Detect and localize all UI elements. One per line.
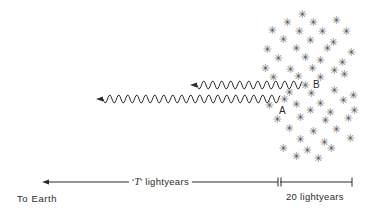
star-glyph: ✳ [322,43,331,54]
star-glyph: ✳ [315,98,324,109]
star-glyph: ✳ [329,85,338,96]
star-glyph: ✳ [305,35,314,46]
star-glyph: ✳ [320,115,329,126]
star-glyph: ✳ [278,143,287,154]
star-glyph: ✳ [313,153,322,164]
star-glyph: ✳ [291,151,300,162]
twenty-lightyears-label: 20 lightyears [286,191,344,202]
star-glyph: ✳ [315,55,324,66]
star-glyph: ✳ [267,25,276,36]
star-glyph: ✳ [282,17,291,28]
star-glyph: ✳ [345,133,354,144]
star-glyph: ✳ [348,90,357,101]
relativity-lightwave-diagram: ✳✳✳✳✳✳✳✳✳✳✳✳✳✳✳✳✳✳✳✳✳✳✳✳✳✳✳✳✳✳✳✳✳✳✳✳✳✳✳✳… [0,0,378,215]
star-glyph: ✳ [317,26,326,37]
distance-axis [42,178,352,187]
star-glyph: ✳ [308,126,317,137]
to-earth-label: To Earth [17,193,57,204]
star-glyph: ✳ [337,57,346,68]
star-glyph: ✳ [268,72,277,83]
star-glyph: ✳ [341,26,350,37]
star-glyph: ✳ [329,65,338,76]
star-glyph: ✳ [278,34,287,45]
star-glyph: ✳ [297,9,306,20]
wave-from-a [96,95,280,103]
star-glyph: ✳ [302,145,311,156]
t-lightyears-label: ‘T’ lightyears [132,176,189,187]
star-glyph: ✳ [295,112,304,123]
star-glyph: ✳ [273,53,282,64]
star-glyph: ✳ [331,15,340,26]
star-glyph: ✳ [284,87,293,98]
star-glyph: ✳ [343,113,352,124]
star-glyph: ✳ [264,100,273,111]
star-glyph: ✳ [326,143,335,154]
star-glyph: ✳ [338,95,347,106]
star-glyph: ✳ [294,26,303,37]
star-glyph: ✳ [339,69,348,80]
star-glyph: ✳ [291,99,300,110]
star-b-label: B [313,79,320,90]
star-a-label: A [279,105,286,116]
star-glyph: ✳ [346,47,355,58]
star-glyph: ✳ [284,123,293,134]
t-quote-close-and-unit: ’ lightyears [140,176,189,187]
star-glyph: ✳ [308,17,317,28]
star-glyph: ✳ [305,105,314,116]
star-glyph: ✳ [262,44,271,55]
star-glyph: ✳ [291,43,300,54]
star-glyph: ✳ [331,124,340,135]
